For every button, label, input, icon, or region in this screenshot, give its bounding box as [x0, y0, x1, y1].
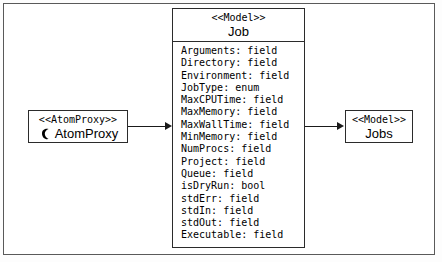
arrowhead-icon — [337, 122, 344, 130]
class-box-atomproxy[interactable]: <<AtomProxy>> AtomProxy — [28, 110, 128, 143]
atomproxy-stereotype: <<AtomProxy>> — [29, 113, 127, 126]
job-stereotype: <<Model>> — [173, 11, 304, 24]
atomproxy-name-row: AtomProxy — [29, 126, 127, 141]
job-attribute-row: Project: field — [181, 156, 304, 168]
arrowhead-icon — [165, 122, 172, 130]
jobs-stereotype: <<Model>> — [346, 113, 412, 126]
job-attributes-compartment: Arguments: fieldDirectory: fieldEnvironm… — [173, 42, 304, 242]
job-class-name: Job — [173, 24, 304, 39]
jobs-class-name: Jobs — [346, 126, 412, 141]
job-attribute-row: MinMemory: field — [181, 131, 304, 143]
job-attribute-row: Arguments: field — [181, 45, 304, 57]
job-attribute-row: Queue: field — [181, 168, 304, 180]
job-attribute-row: MaxWallTime: field — [181, 119, 304, 131]
job-attribute-row: isDryRun: bool — [181, 180, 304, 192]
job-attribute-row: JobType: enum — [181, 82, 304, 94]
connector-line — [305, 126, 339, 127]
connector-line — [128, 126, 167, 127]
diagram-canvas: <<AtomProxy>> AtomProxy <<Model>> Job Ar… — [0, 0, 442, 262]
job-attribute-row: MaxCPUTime: field — [181, 94, 304, 106]
job-header-compartment: <<Model>> Job — [173, 9, 304, 42]
job-attribute-row: stdIn: field — [181, 205, 304, 217]
job-attribute-row: Directory: field — [181, 57, 304, 69]
job-attribute-row: stdOut: field — [181, 217, 304, 229]
class-box-job[interactable]: <<Model>> Job Arguments: fieldDirectory:… — [172, 8, 305, 248]
atom-proxy-glyph-icon — [40, 128, 50, 140]
class-box-jobs[interactable]: <<Model>> Jobs — [345, 110, 413, 143]
job-attribute-row: Executable: field — [181, 229, 304, 241]
job-attribute-row: NumProcs: field — [181, 143, 304, 155]
job-attribute-row: Environment: field — [181, 70, 304, 82]
job-attribute-row: MaxMemory: field — [181, 106, 304, 118]
atomproxy-class-name: AtomProxy — [55, 126, 119, 141]
job-attribute-row: stdErr: field — [181, 193, 304, 205]
